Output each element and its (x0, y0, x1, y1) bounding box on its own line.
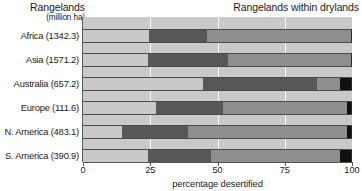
bar-row (83, 29, 352, 43)
left-title-main: Rangelands (30, 1, 85, 13)
bar-segment-light-gray-segment (83, 126, 122, 138)
bar-end-cap (351, 78, 352, 90)
bar-row (83, 77, 352, 91)
chart-left-title: Rangelands (million ha) (0, 2, 85, 23)
bar-segment-mid-gray-segment (228, 54, 352, 66)
bar-segment-mid-gray-segment (188, 126, 347, 138)
bar-end-cap (351, 126, 352, 138)
bar-segment-mid-gray-segment (317, 78, 340, 90)
desertification-bar-chart: Rangelands (million ha) Rangelands withi… (0, 0, 362, 191)
row-label-europe: Europe (111.6) (0, 102, 79, 113)
bar-segment-dark-gray-segment (156, 102, 223, 114)
x-tick-label-100: 100 (344, 165, 359, 176)
bar-segment-dark-gray-segment (149, 30, 207, 42)
bar-segment-light-gray-segment (83, 78, 203, 90)
bar-segment-light-gray-segment (83, 150, 148, 162)
bar-segment-light-gray-segment (83, 102, 156, 114)
left-title-units: (million ha) (0, 13, 85, 23)
x-axis-label: percentage desertified (83, 178, 352, 189)
row-label-australia: Australia (657.2) (0, 78, 79, 89)
bar-segment-dark-gray-segment (203, 78, 317, 90)
bar-segment-mid-gray-segment (223, 102, 347, 114)
x-tick-label-0: 0 (80, 165, 85, 176)
x-tick-label-25: 25 (145, 165, 155, 176)
bar-row (83, 53, 352, 67)
bar-row (83, 149, 352, 163)
bar-end-cap (351, 54, 352, 66)
bar-segment-mid-gray-segment (207, 30, 352, 42)
chart-right-title: Rangelands within drylands (233, 2, 359, 13)
x-tick-label-75: 75 (280, 165, 290, 176)
bar-row (83, 125, 352, 139)
bar-segment-dark-gray-segment (148, 150, 211, 162)
bar-segment-dark-gray-segment (148, 54, 229, 66)
x-tick-label-50: 50 (212, 165, 222, 176)
bar-segment-light-gray-segment (83, 54, 148, 66)
row-label-s: S. America (390.9) (0, 150, 79, 161)
bar-end-cap (351, 30, 352, 42)
bar-row (83, 101, 352, 115)
plot-area (83, 17, 352, 162)
bar-segment-dark-gray-segment (122, 126, 188, 138)
row-label-n: N. America (483.1) (0, 126, 79, 137)
bar-end-cap (351, 102, 352, 114)
bar-end-cap (351, 150, 352, 162)
row-label-asia: Asia (1571.2) (0, 54, 79, 65)
row-label-africa: Africa (1342.3) (0, 30, 79, 41)
bar-segment-light-gray-segment (83, 30, 149, 42)
bar-segment-mid-gray-segment (211, 150, 341, 162)
